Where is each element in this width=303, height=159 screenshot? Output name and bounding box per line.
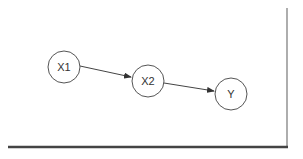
edge-x2-to-y [164, 83, 214, 91]
causal-diagram: X1 X2 Y [0, 0, 303, 159]
node-y: Y [215, 78, 247, 110]
node-x2-label: X2 [141, 75, 154, 87]
node-x1: X1 [48, 51, 80, 83]
node-x1-label: X1 [57, 61, 70, 73]
edge-x1-to-x2 [80, 66, 131, 77]
node-y-label: Y [227, 88, 235, 100]
node-x2: X2 [132, 65, 164, 97]
